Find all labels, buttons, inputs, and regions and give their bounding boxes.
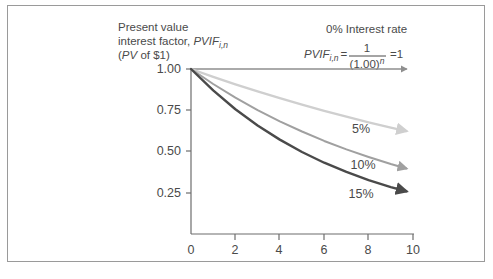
caption-pv-symbol: PV bbox=[122, 49, 139, 61]
formula-left-side: PVIFi,n= bbox=[304, 48, 348, 63]
yaxis-caption-line2-symbol: PVIF bbox=[193, 35, 220, 47]
caption-pv-rest: of $1) bbox=[137, 49, 170, 61]
y-axis-ticks bbox=[186, 69, 191, 193]
formula-denominator: (1.00)n bbox=[350, 56, 385, 70]
yaxis-caption-line1: Present value bbox=[118, 21, 188, 33]
y-tick-label-0.75: 0.75 bbox=[157, 103, 181, 117]
curve-10pct bbox=[191, 69, 406, 169]
x-tick-label-2: 2 bbox=[232, 243, 239, 257]
curve-label-15pct: 15% bbox=[348, 187, 373, 201]
x-axis-ticks bbox=[235, 234, 413, 240]
x-tick-label-8: 8 bbox=[365, 243, 372, 257]
formula-denominator-exponent: n bbox=[380, 56, 385, 66]
pvif-formula: PVIFi,n= 1 (1.00)n =1 bbox=[304, 42, 403, 70]
x-tick-label-6: 6 bbox=[321, 243, 328, 257]
series-curves bbox=[191, 69, 406, 191]
yaxis-caption-line2-sub: i,n bbox=[219, 40, 228, 50]
formula-denominator-base: (1.00) bbox=[350, 58, 380, 70]
zero-rate-note: 0% Interest rate bbox=[326, 23, 407, 35]
x-tick-label-4: 4 bbox=[276, 243, 283, 257]
x-tick-label-10: 10 bbox=[406, 243, 420, 257]
figure-frame: Present value interest factor, PVIFi,n (… bbox=[7, 5, 485, 262]
curve-label-5pct: 5% bbox=[352, 122, 370, 136]
yaxis-caption-line2-prefix: interest factor, bbox=[118, 35, 193, 47]
x-tick-label-0: 0 bbox=[188, 243, 195, 257]
formula-numerator: 1 bbox=[364, 42, 370, 54]
formula-symbol: PVIF bbox=[304, 48, 331, 60]
y-tick-label-0.50: 0.50 bbox=[157, 144, 181, 158]
formula-equals: = bbox=[341, 48, 348, 60]
yaxis-caption-line3: (PV of $1) bbox=[118, 49, 170, 61]
present-value-factor-chart: Present value interest factor, PVIFi,n (… bbox=[8, 6, 486, 263]
formula-subscript: i,n bbox=[330, 53, 339, 63]
y-tick-label-0.25: 0.25 bbox=[157, 186, 181, 200]
yaxis-caption-line2: interest factor, PVIFi,n bbox=[118, 35, 228, 50]
formula-result: =1 bbox=[390, 48, 403, 60]
curve-label-10pct: 10% bbox=[350, 158, 375, 172]
y-tick-label-1.00: 1.00 bbox=[157, 62, 181, 76]
